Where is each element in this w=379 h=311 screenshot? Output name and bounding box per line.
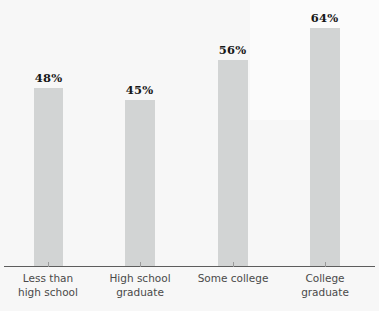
bar-chart: 48% 45% 56% 64% Less than high school Hi… [0,0,379,311]
value-label-less-than-high-school: 48% [24,71,73,85]
value-label-college-graduate: 64% [300,11,349,25]
bar-some-college[interactable] [218,60,248,266]
category-label-some-college: Some college [190,272,276,286]
x-axis-tick-2 [140,262,141,267]
x-axis-tick-4 [325,262,326,267]
x-axis-line [4,266,375,267]
plot-area: 48% 45% 56% 64% [0,0,379,266]
x-axis-tick-3 [233,262,234,267]
value-label-some-college: 56% [208,43,257,57]
x-axis-tick-1 [48,262,49,267]
category-label-less-than-high-school: Less than high school [8,272,88,299]
bar-college-graduate[interactable] [310,28,340,266]
value-label-high-school-graduate: 45% [115,83,164,97]
bar-high-school-graduate[interactable] [125,100,155,266]
category-label-college-graduate: College graduate [285,272,365,299]
category-label-high-school-graduate: High school graduate [100,272,180,299]
bar-less-than-high-school[interactable] [34,88,63,266]
